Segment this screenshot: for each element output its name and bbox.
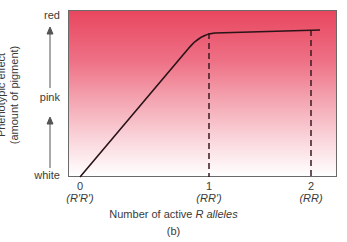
y-level-white: white [0,169,60,181]
figure-caption: (b) [0,225,347,237]
y-axis-title: Phenotypic effect (amount of pigment) [0,20,21,170]
x-tick-1: 1 [189,180,229,192]
x-axis-title: Number of active R alleles [0,208,347,220]
chart-lines [0,0,347,242]
x-tick-2: 2 [291,180,331,192]
response-curve [80,30,320,177]
dashed-guides [209,30,311,177]
genotype-1: (RR′) [184,192,234,204]
x-tick-0: 0 [60,180,100,192]
genotype-2: (RR) [286,192,336,204]
genotype-0: (R′R′) [55,192,105,204]
